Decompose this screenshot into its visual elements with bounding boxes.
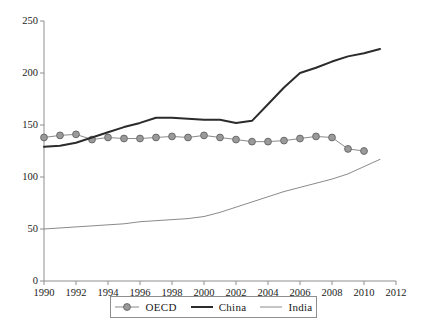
series-marker-oecd: [41, 134, 48, 141]
y-axis-tick-label: 200: [4, 68, 38, 79]
series-marker-oecd: [57, 132, 64, 139]
x-axis-tick-label: 2012: [376, 288, 416, 299]
legend-label: China: [219, 301, 247, 313]
y-axis-tick-label: 100: [4, 172, 38, 183]
y-axis-tick-label: 150: [4, 120, 38, 131]
series-marker-oecd: [185, 134, 192, 141]
series-marker-oecd: [217, 134, 224, 141]
legend-label: OECD: [145, 301, 176, 313]
legend-item-india[interactable]: India: [259, 301, 312, 313]
series-marker-oecd: [265, 138, 272, 145]
series-marker-oecd: [361, 148, 368, 155]
series-marker-oecd: [249, 138, 256, 145]
series-marker-oecd: [169, 133, 176, 140]
legend-swatch-oecd-icon: [114, 301, 140, 313]
series-marker-oecd: [329, 134, 336, 141]
series-marker-oecd: [201, 132, 208, 139]
series-marker-oecd: [137, 135, 144, 142]
series-marker-oecd: [153, 134, 160, 141]
legend-item-oecd[interactable]: OECD: [114, 301, 176, 313]
legend-swatch-china-icon: [190, 301, 214, 313]
chart-legend: OECDChinaIndia: [110, 296, 317, 318]
series-marker-oecd: [121, 135, 128, 142]
line-chart: 050100150200250 199019921994199619982000…: [0, 0, 423, 327]
series-marker-oecd: [233, 136, 240, 143]
legend-item-china[interactable]: China: [190, 301, 247, 313]
y-axis-tick-label: 50: [4, 224, 38, 235]
series-line-india: [44, 159, 380, 229]
series-marker-oecd: [313, 133, 320, 140]
y-axis-tick-label: 0: [4, 276, 38, 287]
series-marker-oecd: [73, 131, 80, 138]
chart-axes: [40, 21, 396, 285]
series-marker-oecd: [281, 137, 288, 144]
series-marker-oecd: [105, 134, 112, 141]
y-axis-tick-label: 250: [4, 16, 38, 27]
series-marker-oecd: [297, 135, 304, 142]
chart-series: [41, 49, 380, 229]
series-marker-oecd: [345, 146, 352, 153]
legend-swatch-india-icon: [259, 301, 283, 313]
legend-label: India: [288, 301, 312, 313]
series-line-china: [44, 49, 380, 147]
chart-plot-area: [0, 0, 423, 327]
